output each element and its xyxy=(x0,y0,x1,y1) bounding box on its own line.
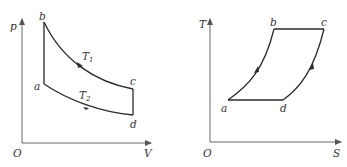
point-c-label: c xyxy=(130,75,136,87)
t-axis-label: T xyxy=(199,18,207,30)
t1-label: T1 xyxy=(82,50,93,64)
point-b-label: b xyxy=(39,10,46,22)
ts-diagram: T S O a b c d xyxy=(199,16,341,159)
point-d-label: d xyxy=(130,118,137,130)
thermo-cycle-figure: p V O b a c d T1 T2 T S O xyxy=(0,0,347,167)
point-a-label: a xyxy=(221,102,227,114)
process-cd-curve xyxy=(283,29,324,100)
s-axis-label: S xyxy=(333,147,340,159)
process-ab-curve xyxy=(228,29,274,100)
p-axis-label: p xyxy=(10,20,17,32)
point-b-label: b xyxy=(270,16,277,28)
v-axis-label: V xyxy=(144,147,153,159)
origin-label: O xyxy=(13,147,22,159)
direction-arrow-icon xyxy=(77,62,83,68)
origin-label: O xyxy=(203,147,212,159)
t2-label: T2 xyxy=(79,89,91,103)
direction-arrow-icon xyxy=(83,107,89,110)
direction-arrow-icon xyxy=(254,66,259,73)
point-a-label: a xyxy=(34,80,40,92)
pv-diagram: p V O b a c d T1 T2 xyxy=(10,10,153,159)
point-d-label: d xyxy=(280,102,287,114)
point-c-label: c xyxy=(321,16,327,28)
